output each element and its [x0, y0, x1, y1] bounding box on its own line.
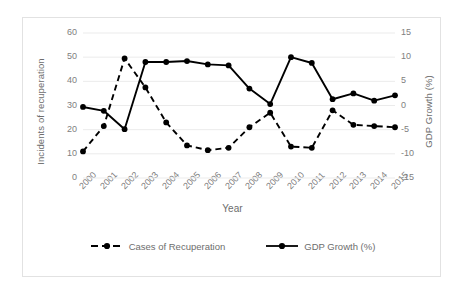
legend-label-cases: Cases of Recuperation [129, 241, 226, 252]
data-point[interactable] [351, 122, 357, 128]
legend-item-gdp[interactable]: GDP Growth (%) [265, 240, 375, 252]
data-point[interactable] [205, 62, 211, 68]
data-point[interactable] [392, 124, 398, 130]
data-point[interactable] [122, 55, 128, 61]
data-point[interactable] [309, 60, 315, 66]
data-point[interactable] [330, 96, 336, 102]
data-point[interactable] [184, 58, 190, 64]
series-layer [80, 54, 398, 154]
data-point[interactable] [122, 126, 128, 132]
data-point[interactable] [101, 123, 107, 129]
data-point[interactable] [309, 145, 315, 151]
legend-marker-dashed [90, 240, 124, 252]
legend-item-cases[interactable]: Cases of Recuperation [90, 240, 226, 252]
data-point[interactable] [371, 98, 377, 104]
series-line [83, 57, 395, 129]
gridlines [83, 33, 395, 178]
data-point[interactable] [392, 92, 398, 98]
chart-container: Incidents of recuperation GDP Growth (%)… [22, 17, 441, 277]
data-point[interactable] [351, 91, 357, 97]
data-point[interactable] [143, 59, 149, 65]
plot-area [23, 18, 442, 278]
data-point[interactable] [143, 84, 149, 90]
series-cases-of-recuperation [80, 55, 398, 154]
data-point[interactable] [80, 149, 86, 155]
legend-label-gdp: GDP Growth (%) [304, 241, 375, 252]
data-point[interactable] [371, 123, 377, 129]
data-point[interactable] [101, 108, 107, 114]
data-point[interactable] [330, 107, 336, 113]
chart-legend: Cases of Recuperation GDP Growth (%) [23, 240, 442, 252]
legend-marker-solid [265, 240, 299, 252]
data-point[interactable] [163, 59, 169, 65]
data-point[interactable] [288, 54, 294, 60]
data-point[interactable] [267, 110, 273, 116]
data-point[interactable] [226, 62, 232, 68]
data-point[interactable] [247, 124, 253, 130]
data-point[interactable] [184, 142, 190, 148]
data-point[interactable] [226, 145, 232, 151]
data-point[interactable] [267, 101, 273, 107]
series-gdp-growth [80, 54, 398, 132]
data-point[interactable] [205, 147, 211, 153]
data-point[interactable] [288, 144, 294, 150]
data-point[interactable] [80, 104, 86, 110]
data-point[interactable] [163, 120, 169, 126]
series-line [83, 58, 395, 151]
data-point[interactable] [247, 86, 253, 92]
